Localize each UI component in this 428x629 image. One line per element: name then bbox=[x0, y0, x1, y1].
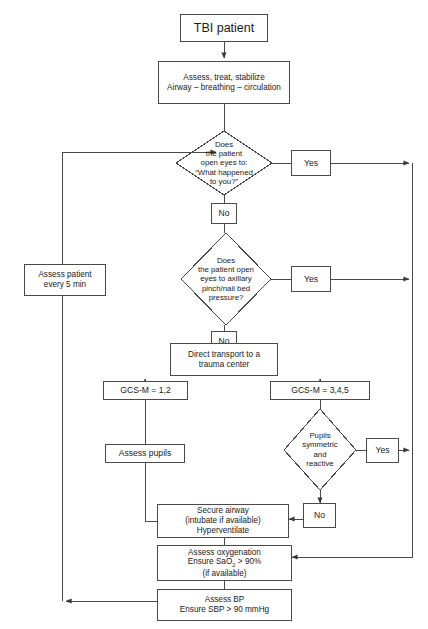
assess-pupils-label: Assess pupils bbox=[106, 448, 184, 458]
node-gcs-m-3-4-5[interactable]: GCS-M = 3,4,5 bbox=[270, 381, 370, 400]
decision-pupils-line2: symmetric bbox=[302, 440, 338, 449]
gcs-m-345-label: GCS-M = 3,4,5 bbox=[271, 385, 369, 395]
direct-transport-line1: Direct transport to a bbox=[188, 350, 260, 359]
decision-eyes-voice-text: Does the patient open eyes to: “What hap… bbox=[176, 140, 272, 186]
decision-eyes-pain-line3: eyes to axillary bbox=[200, 274, 252, 283]
direct-transport-line2: trauma center bbox=[199, 360, 250, 369]
sao2-prefix: Ensure SaO bbox=[188, 557, 233, 566]
secure-airway-line1: Secure airway bbox=[197, 506, 249, 515]
yes2-label: Yes bbox=[292, 274, 330, 284]
decision-pupils-line4: reactive bbox=[306, 459, 333, 468]
decision-pupils-text: Pupils symmetric and reactive bbox=[284, 431, 356, 468]
decision-pupils-line3: and bbox=[313, 450, 326, 459]
assess-stabilize-line1: Assess, treat, stabilize bbox=[183, 73, 264, 82]
node-secure-airway[interactable]: Secure airway (intubate if available) Hy… bbox=[157, 504, 289, 538]
assess-stabilize-line2: Airway – breathing – circulation bbox=[167, 83, 281, 92]
assess-bp-text: Assess BP Ensure SBP > 90 mmHg bbox=[158, 595, 291, 614]
decision-eyes-voice-line2: the patient bbox=[206, 149, 242, 158]
node-no-eyes-to-voice[interactable]: No bbox=[211, 203, 237, 224]
assess-oxygenation-line1: Assess oxygenation bbox=[188, 548, 261, 557]
assess-bp-line2: Ensure SBP > 90 mmHg bbox=[180, 605, 269, 614]
node-tbi-patient-label: TBI patient bbox=[181, 21, 267, 36]
yes1-label: Yes bbox=[292, 158, 330, 168]
yes3-label: Yes bbox=[367, 445, 398, 455]
flowchart-canvas: TBI patient Assess, treat, stabilize Air… bbox=[0, 0, 428, 629]
secure-airway-text: Secure airway (intubate if available) Hy… bbox=[158, 506, 288, 535]
node-no-pupils[interactable]: No bbox=[303, 503, 336, 528]
decision-eyes-voice-line1: Does bbox=[215, 140, 233, 149]
assess-5min-text: Assess patient every 5 min bbox=[25, 270, 105, 289]
decision-eyes-voice-line3: open eyes to: bbox=[201, 158, 248, 167]
node-decision-eyes-to-pain[interactable]: Does the patient open eyes to axillary p… bbox=[181, 233, 271, 325]
node-yes-eyes-to-voice[interactable]: Yes bbox=[291, 150, 331, 176]
secure-airway-line2: (intubate if available) bbox=[185, 516, 261, 525]
decision-eyes-pain-line5: pressure? bbox=[209, 293, 244, 302]
node-yes-eyes-to-pain[interactable]: Yes bbox=[291, 266, 331, 292]
no3-label: No bbox=[304, 510, 335, 520]
decision-eyes-pain-line2: the patient open bbox=[198, 265, 254, 274]
direct-transport-text: Direct transport to a trauma center bbox=[171, 350, 277, 369]
node-assess-oxygenation[interactable]: Assess oxygenation Ensure SaO2 > 90% (if… bbox=[157, 545, 292, 581]
node-assess-every-5-min[interactable]: Assess patient every 5 min bbox=[24, 264, 106, 296]
decision-pupils-line1: Pupils bbox=[309, 431, 330, 440]
node-decision-pupils[interactable]: Pupils symmetric and reactive bbox=[284, 409, 356, 490]
gcs-m-12-label: GCS-M = 1,2 bbox=[104, 385, 187, 395]
decision-eyes-pain-line4: pinch/nail bed bbox=[202, 284, 250, 293]
node-assess-stabilize-text: Assess, treat, stabilize Airway – breath… bbox=[159, 73, 289, 92]
no1-label: No bbox=[212, 208, 236, 218]
edge-rail-to-oxygenation bbox=[292, 163, 412, 557]
assess-5min-line1: Assess patient bbox=[38, 270, 91, 279]
decision-eyes-pain-line1: Does bbox=[217, 256, 235, 265]
assess-oxygenation-text: Assess oxygenation Ensure SaO2 > 90% (if… bbox=[158, 548, 291, 579]
node-gcs-m-1-2[interactable]: GCS-M = 1,2 bbox=[103, 381, 188, 400]
secure-airway-line3: Hyperventilate bbox=[197, 526, 249, 535]
node-assess-stabilize[interactable]: Assess, treat, stabilize Airway – breath… bbox=[158, 61, 290, 104]
node-decision-eyes-to-voice[interactable]: Does the patient open eyes to: “What hap… bbox=[176, 131, 272, 195]
assess-5min-line2: every 5 min bbox=[44, 280, 86, 289]
assess-oxygenation-line3: (if available) bbox=[202, 569, 246, 578]
node-yes-pupils[interactable]: Yes bbox=[366, 438, 399, 463]
assess-bp-line1: Assess BP bbox=[205, 595, 245, 604]
decision-eyes-voice-line4: “What happened bbox=[195, 168, 253, 177]
decision-eyes-pain-text: Does the patient open eyes to axillary p… bbox=[181, 256, 271, 302]
node-tbi-patient[interactable]: TBI patient bbox=[180, 14, 268, 42]
node-assess-pupils[interactable]: Assess pupils bbox=[105, 444, 185, 463]
node-assess-bp[interactable]: Assess BP Ensure SBP > 90 mmHg bbox=[157, 589, 292, 621]
node-direct-transport[interactable]: Direct transport to a trauma center bbox=[170, 343, 278, 376]
assess-oxygenation-line2: Ensure SaO2 > 90% bbox=[188, 557, 262, 566]
sao2-suffix: > 90% bbox=[236, 557, 262, 566]
decision-eyes-voice-line5: to you?” bbox=[210, 177, 238, 186]
